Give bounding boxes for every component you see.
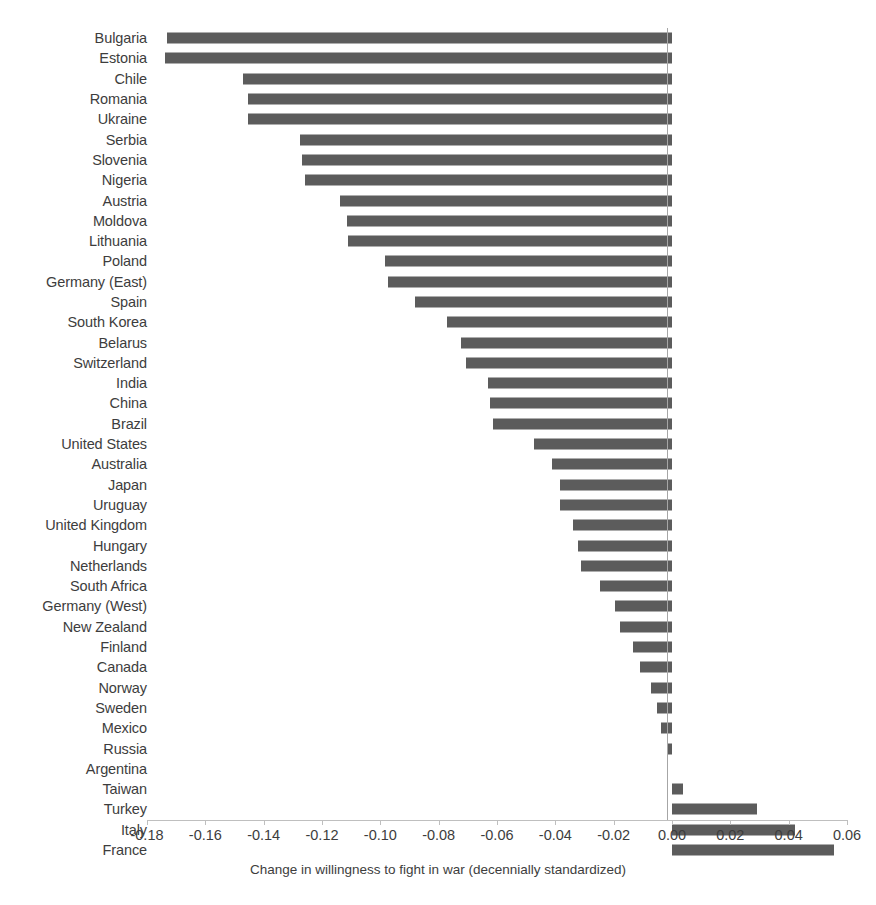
bar bbox=[388, 276, 672, 287]
category-label: Argentina bbox=[86, 762, 147, 777]
chart-row: Switzerland bbox=[0, 353, 876, 373]
category-label: South Korea bbox=[67, 315, 147, 330]
bar bbox=[672, 845, 834, 856]
x-tick-label: -0.06 bbox=[480, 828, 513, 843]
bar bbox=[672, 784, 683, 795]
x-tick-label: -0.08 bbox=[422, 828, 455, 843]
chart-row: Austria bbox=[0, 190, 876, 210]
x-tick-label: 0.04 bbox=[775, 828, 803, 843]
chart-row: Uruguay bbox=[0, 495, 876, 515]
bar bbox=[385, 256, 672, 267]
chart-row: Brazil bbox=[0, 414, 876, 434]
chart-row: Germany (West) bbox=[0, 596, 876, 616]
x-tick-label: -0.12 bbox=[305, 828, 338, 843]
category-label: Chile bbox=[114, 71, 147, 86]
category-label: Taiwan bbox=[102, 782, 147, 797]
chart-row: Bulgaria bbox=[0, 28, 876, 48]
bar bbox=[657, 702, 672, 713]
chart-row: Spain bbox=[0, 292, 876, 312]
bar bbox=[672, 804, 757, 815]
chart-row: Argentina bbox=[0, 759, 876, 779]
category-label: Sweden bbox=[95, 701, 147, 716]
bar bbox=[466, 357, 672, 368]
x-tick-mark bbox=[147, 820, 148, 825]
chart-row: Moldova bbox=[0, 211, 876, 231]
category-label: Slovenia bbox=[92, 153, 147, 168]
x-tick-mark bbox=[847, 820, 848, 825]
bar bbox=[340, 195, 672, 206]
bar bbox=[305, 175, 672, 186]
x-tick-mark bbox=[730, 820, 731, 825]
category-label: Poland bbox=[102, 254, 147, 269]
category-label: Bulgaria bbox=[95, 31, 147, 46]
chart-row: Turkey bbox=[0, 799, 876, 819]
category-label: South Africa bbox=[70, 579, 147, 594]
x-tick-mark bbox=[672, 820, 673, 825]
x-tick-mark bbox=[614, 820, 615, 825]
bar bbox=[573, 520, 672, 531]
category-label: India bbox=[116, 376, 147, 391]
category-label: Lithuania bbox=[89, 234, 147, 249]
chart-row: India bbox=[0, 373, 876, 393]
chart-row: Netherlands bbox=[0, 556, 876, 576]
bar bbox=[620, 621, 673, 632]
category-label: Germany (West) bbox=[42, 599, 147, 614]
x-tick-label: -0.16 bbox=[189, 828, 222, 843]
chart-row: Germany (East) bbox=[0, 272, 876, 292]
category-label: China bbox=[110, 396, 147, 411]
category-label: Hungary bbox=[93, 538, 147, 553]
bar bbox=[552, 459, 672, 470]
bar bbox=[490, 398, 672, 409]
category-label: Austria bbox=[103, 193, 147, 208]
chart-row: United States bbox=[0, 434, 876, 454]
chart-row: Russia bbox=[0, 738, 876, 758]
chart-row: Belarus bbox=[0, 332, 876, 352]
chart-row: Poland bbox=[0, 251, 876, 271]
x-tick-mark bbox=[322, 820, 323, 825]
bar bbox=[668, 743, 672, 754]
category-label: Uruguay bbox=[93, 498, 147, 513]
category-label: Netherlands bbox=[70, 559, 147, 574]
bar bbox=[167, 33, 672, 44]
bar bbox=[347, 215, 672, 226]
x-tick-label: -0.04 bbox=[539, 828, 572, 843]
chart-row: Slovenia bbox=[0, 150, 876, 170]
chart-row: Sweden bbox=[0, 698, 876, 718]
x-tick-label: -0.02 bbox=[597, 828, 630, 843]
bar bbox=[560, 499, 672, 510]
x-tick-label: 0.02 bbox=[716, 828, 744, 843]
x-axis-title: Change in willingness to fight in war (d… bbox=[0, 862, 876, 877]
x-tick-mark bbox=[789, 820, 790, 825]
category-label: United States bbox=[61, 437, 147, 452]
category-label: Mexico bbox=[102, 721, 147, 736]
chart-row: Ukraine bbox=[0, 109, 876, 129]
bar-chart: BulgariaEstoniaChileRomaniaUkraineSerbia… bbox=[0, 0, 876, 905]
bar bbox=[300, 134, 672, 145]
chart-row: Serbia bbox=[0, 129, 876, 149]
bar bbox=[651, 682, 672, 693]
x-tick-label: -0.18 bbox=[130, 828, 163, 843]
chart-row: Romania bbox=[0, 89, 876, 109]
chart-row: South Africa bbox=[0, 576, 876, 596]
x-tick-mark bbox=[555, 820, 556, 825]
bar bbox=[615, 601, 672, 612]
chart-row: China bbox=[0, 393, 876, 413]
category-label: Spain bbox=[110, 295, 147, 310]
zero-axis-line bbox=[667, 28, 668, 820]
category-label: Belarus bbox=[99, 335, 147, 350]
x-tick-label: 0.00 bbox=[658, 828, 686, 843]
x-tick-mark bbox=[497, 820, 498, 825]
bar bbox=[248, 94, 672, 105]
bar bbox=[243, 73, 672, 84]
category-label: Brazil bbox=[111, 417, 147, 432]
chart-row: Mexico bbox=[0, 718, 876, 738]
category-label: Russia bbox=[103, 741, 147, 756]
category-label: Serbia bbox=[106, 132, 147, 147]
category-label: Japan bbox=[108, 477, 147, 492]
bar bbox=[302, 154, 672, 165]
bar bbox=[165, 53, 673, 64]
bar bbox=[534, 439, 672, 450]
chart-row: Taiwan bbox=[0, 779, 876, 799]
chart-row: Australia bbox=[0, 454, 876, 474]
category-label: Moldova bbox=[93, 214, 147, 229]
